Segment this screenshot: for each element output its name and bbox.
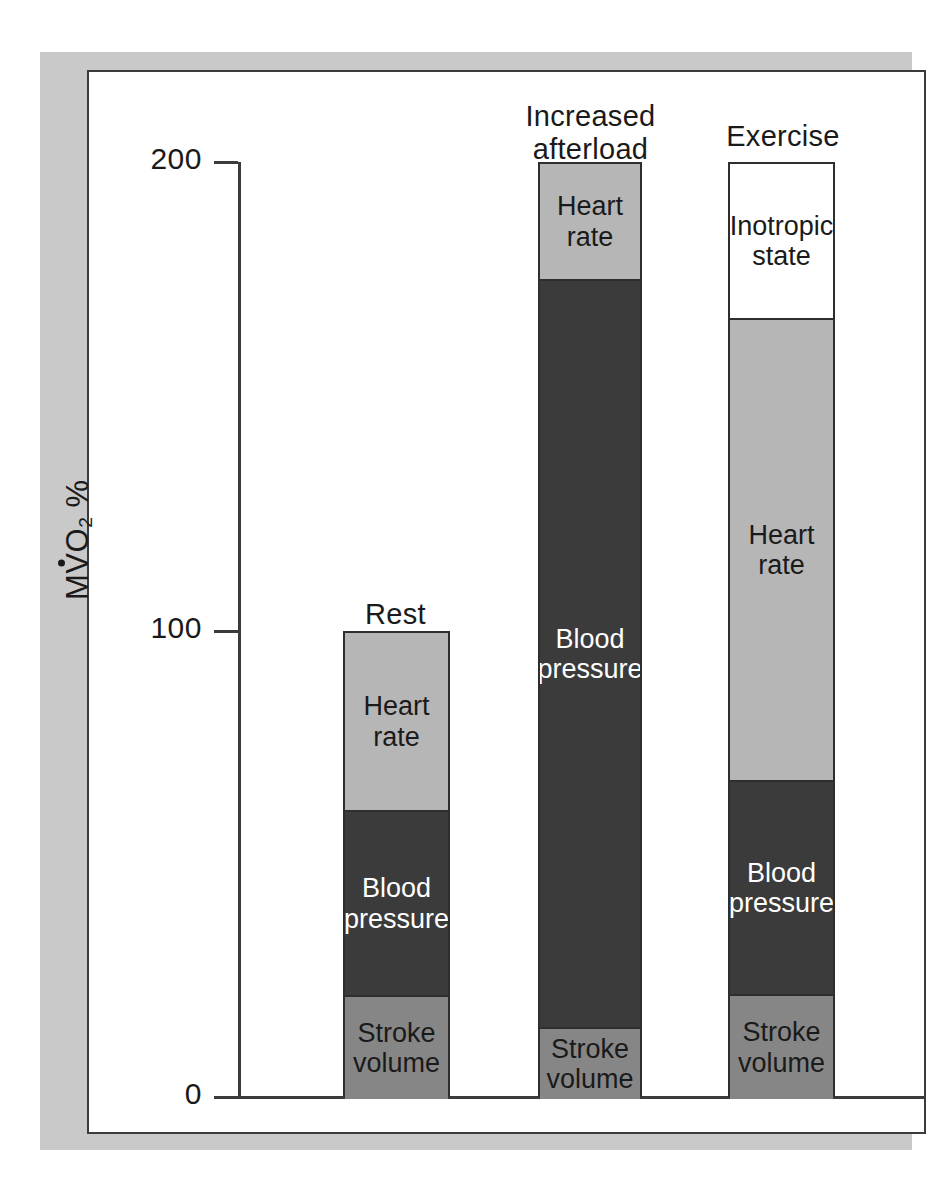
bar-exercise-inotropic-state-label-line2: state (752, 241, 811, 271)
bar-rest-segment-blood-pressure[interactable]: Blood pressure (345, 810, 448, 997)
bar-afterload-heart-rate-label-line1: Heart (557, 191, 623, 221)
y-tick-mark-100 (214, 630, 238, 633)
bar-afterload-stroke-volume-label-line1: Stroke (551, 1034, 629, 1064)
y-axis-title-percent: % (60, 479, 95, 516)
bar-exercise-segment-heart-rate[interactable]: Heart rate (730, 320, 833, 780)
bar-afterload-stroke-volume-label-line2: volume (546, 1064, 633, 1094)
bar-exercise-inotropic-state-label-line1: Inotropic (730, 211, 833, 241)
bar-exercise-stroke-volume-label-line2: volume (738, 1048, 825, 1078)
bar-rest-blood-pressure-label-line1: Blood (362, 873, 431, 903)
bar-rest-segment-stroke-volume[interactable]: Stroke volume (345, 997, 448, 1099)
y-tick-label-200: 200 (82, 142, 202, 176)
bar-rest-heart-rate-label-line1: Heart (363, 691, 429, 721)
bar-afterload-segment-stroke-volume[interactable]: Stroke volume (540, 1029, 640, 1099)
bar-rest-stroke-volume-label-line2: volume (353, 1048, 440, 1078)
bar-exercise[interactable]: Inotropic state Heart rate Blood pressur… (728, 162, 835, 1097)
bar-afterload-segment-blood-pressure[interactable]: Blood pressure (540, 279, 640, 1029)
bar-rest-blood-pressure-label-line2: pressure (345, 904, 448, 934)
bar-rest[interactable]: Heart rate Blood pressure Stroke volume (343, 631, 450, 1097)
y-tick-label-0: 0 (82, 1077, 202, 1111)
y-axis-title-o: O (60, 528, 95, 553)
bar-exercise-heart-rate-label-line1: Heart (748, 520, 814, 550)
bar-exercise-segment-stroke-volume[interactable]: Stroke volume (730, 996, 833, 1099)
bar-afterload-heart-rate-label-line2: rate (567, 222, 614, 252)
y-tick-mark-200 (214, 161, 238, 164)
bar-increased-afterload[interactable]: Heart rate Blood pressure Stroke volume (538, 162, 642, 1097)
bar-exercise-blood-pressure-label-line1: Blood (747, 858, 816, 888)
bar-title-rest-text: Rest (365, 598, 426, 630)
bar-title-afterload-line1: Increased (525, 100, 655, 132)
bar-title-exercise-text: Exercise (726, 120, 840, 152)
y-axis-line (238, 162, 241, 1099)
bar-afterload-blood-pressure-label-line2: pressure (540, 654, 640, 684)
bar-title-afterload-line2: afterload (533, 133, 649, 165)
bar-rest-stroke-volume-label-line1: Stroke (357, 1018, 435, 1048)
bar-rest-segment-heart-rate[interactable]: Heart rate (345, 633, 448, 810)
bar-exercise-segment-inotropic-state[interactable]: Inotropic state (730, 164, 833, 320)
bar-title-afterload: Increased afterload (503, 100, 678, 166)
bar-title-exercise: Exercise (708, 120, 858, 153)
figure-page: 200 100 0 MVO2 % Rest Heart rate Blood p… (0, 0, 940, 1197)
y-tick-label-100: 100 (82, 611, 202, 645)
bar-exercise-heart-rate-label-line2: rate (758, 550, 805, 580)
y-axis-title-sub: 2 (75, 517, 96, 528)
bar-afterload-blood-pressure-label-line1: Blood (555, 624, 624, 654)
bar-exercise-blood-pressure-label-line2: pressure (730, 888, 833, 918)
y-axis-title-vdot: V (60, 552, 96, 573)
bar-afterload-segment-heart-rate[interactable]: Heart rate (540, 164, 640, 279)
bar-rest-heart-rate-label-line2: rate (373, 722, 420, 752)
bar-exercise-stroke-volume-label-line1: Stroke (742, 1017, 820, 1047)
y-tick-mark-0 (214, 1096, 238, 1099)
bar-exercise-segment-blood-pressure[interactable]: Blood pressure (730, 780, 833, 996)
bar-title-rest: Rest (328, 598, 463, 631)
y-axis-title-m: M (60, 574, 95, 600)
y-axis-title: MVO2 % (60, 479, 96, 600)
